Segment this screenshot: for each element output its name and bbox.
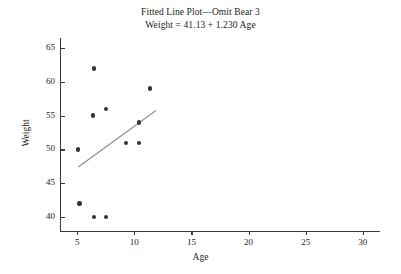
y-tick-label-60: 60 <box>33 76 55 86</box>
data-point <box>92 215 96 219</box>
y-tick-45 <box>61 183 65 184</box>
y-tick-label-50: 50 <box>33 143 55 153</box>
data-point <box>77 201 81 205</box>
x-axis-line <box>60 231 380 232</box>
x-tick-10 <box>134 231 135 235</box>
data-point <box>104 107 108 111</box>
x-tick-label-25: 25 <box>294 237 318 247</box>
x-tick-label-5: 5 <box>65 237 89 247</box>
y-tick-55 <box>61 116 65 117</box>
plot-area: 404550556065 51015202530 Age Weight <box>0 0 401 274</box>
y-axis-line <box>60 38 61 231</box>
x-tick-5 <box>77 231 78 235</box>
x-axis-label: Age <box>0 252 401 262</box>
x-tick-label-15: 15 <box>179 237 203 247</box>
data-point <box>124 141 128 145</box>
x-tick-label-20: 20 <box>237 237 261 247</box>
y-tick-label-55: 55 <box>33 110 55 120</box>
data-point <box>91 113 95 117</box>
data-point <box>92 66 96 70</box>
fitted-line-plot-figure: Fitted Line Plot—Omit Bear 3 Weight = 41… <box>0 0 401 274</box>
data-point <box>137 120 141 124</box>
data-point <box>148 86 152 90</box>
data-point <box>137 141 141 145</box>
y-tick-label-65: 65 <box>33 42 55 52</box>
x-tick-30 <box>363 231 364 235</box>
x-tick-25 <box>306 231 307 235</box>
y-tick-label-45: 45 <box>33 177 55 187</box>
y-tick-60 <box>61 82 65 83</box>
y-tick-40 <box>61 217 65 218</box>
x-tick-15 <box>191 231 192 235</box>
x-tick-label-10: 10 <box>122 237 146 247</box>
y-axis-label: Weight <box>21 103 31 163</box>
y-tick-50 <box>61 149 65 150</box>
data-point <box>104 215 108 219</box>
y-tick-65 <box>61 48 65 49</box>
y-tick-label-40: 40 <box>33 211 55 221</box>
data-point <box>76 147 80 151</box>
x-tick-20 <box>249 231 250 235</box>
x-tick-label-30: 30 <box>351 237 375 247</box>
